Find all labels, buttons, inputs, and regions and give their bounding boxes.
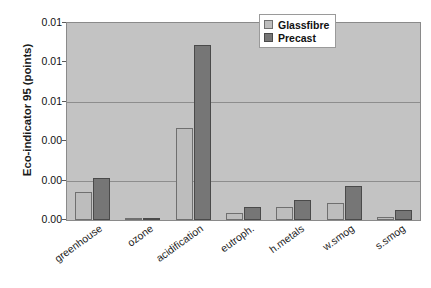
bar-group <box>67 23 117 220</box>
bar-ozone-precast <box>143 218 160 220</box>
legend-label: Glassfibre <box>278 19 329 31</box>
y-tick-label: 0.01 <box>22 55 62 67</box>
bar-wsmog-glassfibre <box>327 203 344 220</box>
y-tick-mark <box>62 219 66 220</box>
y-tick-mark <box>62 22 66 23</box>
bar-greenhouse-glassfibre <box>75 192 92 220</box>
legend-label: Precast <box>278 32 316 44</box>
bar-group <box>269 23 319 220</box>
y-tick-label: 0.00 <box>22 174 62 186</box>
plot-area <box>66 22 421 221</box>
bar-group <box>218 23 268 220</box>
y-tick-label: 0.01 <box>22 95 62 107</box>
chart-legend: GlassfibrePrecast <box>259 14 336 48</box>
bar-greenhouse-precast <box>93 178 110 220</box>
bar-acidification-precast <box>194 45 211 220</box>
legend-swatch-icon <box>264 20 273 29</box>
bar-group <box>370 23 420 220</box>
eco-indicator-bar-chart: Eco-indicator 95 (points) 0.010.010.010.… <box>0 0 431 288</box>
y-tick-mark <box>62 61 66 62</box>
bar-ssmog-precast <box>395 210 412 220</box>
legend-item-glassfibre: Glassfibre <box>264 18 329 31</box>
bar-hmetals-precast <box>294 200 311 220</box>
bar-ssmog-glassfibre <box>377 217 394 220</box>
bar-group <box>168 23 218 220</box>
legend-swatch-icon <box>264 33 273 42</box>
bar-wsmog-precast <box>345 186 362 220</box>
bar-hmetals-glassfibre <box>276 207 293 220</box>
bar-eutroph-glassfibre <box>226 213 243 220</box>
bar-group <box>319 23 369 220</box>
bar-ozone-glassfibre <box>125 218 142 220</box>
y-tick-mark <box>62 101 66 102</box>
legend-item-precast: Precast <box>264 31 329 44</box>
bar-eutroph-precast <box>244 207 261 220</box>
y-tick-mark <box>62 140 66 141</box>
y-tick-mark <box>62 180 66 181</box>
bar-group <box>117 23 167 220</box>
x-axis-category-labels: greenhouseozoneacidificationeutroph.h.me… <box>0 222 431 288</box>
y-tick-label: 0.00 <box>22 134 62 146</box>
bar-acidification-glassfibre <box>176 128 193 220</box>
y-tick-label: 0.01 <box>22 16 62 28</box>
